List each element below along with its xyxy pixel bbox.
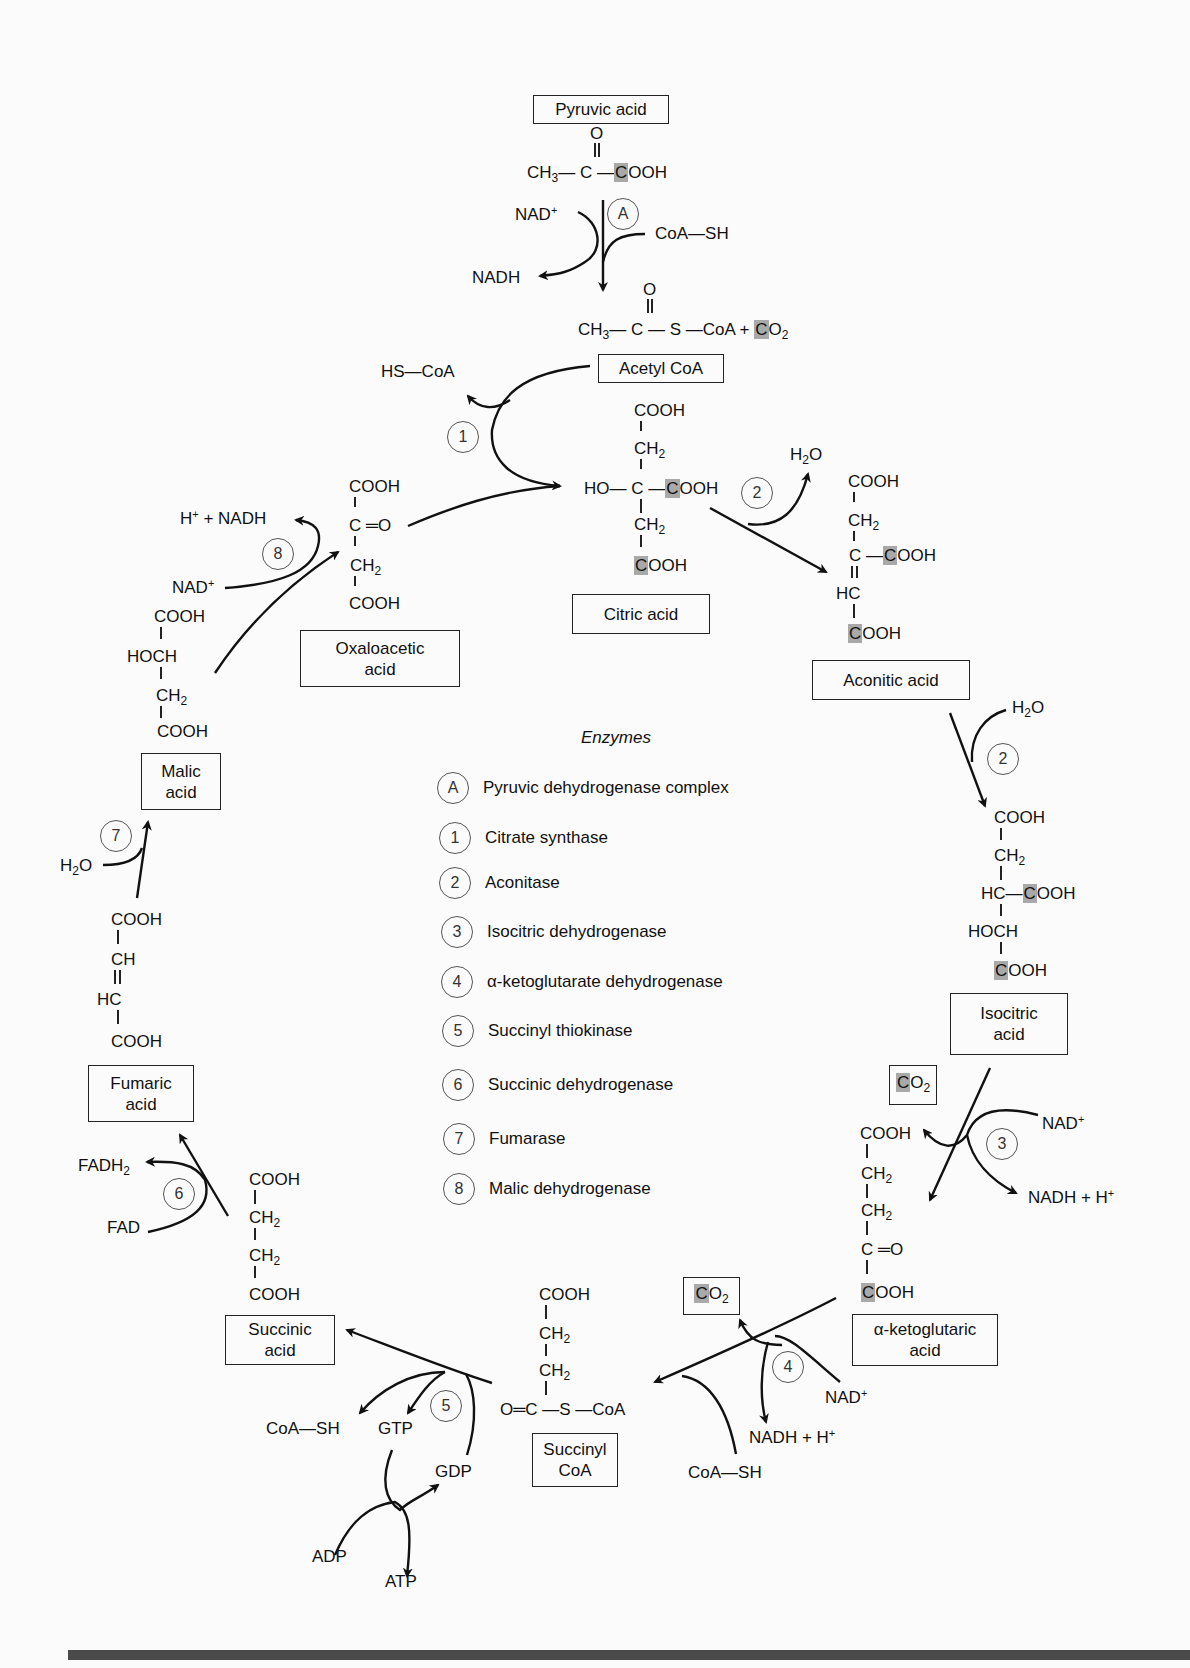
bond — [254, 1228, 256, 1240]
enzyme-marker: 6 — [442, 1069, 474, 1101]
formula-line: COOH — [249, 1285, 300, 1305]
compound-label: Fumaric — [110, 1073, 171, 1094]
formula-line: COOH — [848, 472, 899, 492]
carbonyl-oxygen: O — [590, 124, 603, 144]
formula-line: COOH — [994, 808, 1045, 828]
compound-box-alpha-ketoglutaric-acid[interactable]: α-ketoglutaric acid — [852, 1314, 998, 1366]
enzyme-marker-3[interactable]: 3 — [986, 1128, 1018, 1160]
enzyme-marker-1[interactable]: 1 — [447, 421, 479, 453]
compound-label: CoA — [558, 1460, 591, 1481]
cofactor-adp: ADP — [312, 1547, 347, 1567]
legend-item: 7 Fumarase — [443, 1122, 566, 1156]
bond — [117, 1010, 119, 1024]
bond — [1000, 904, 1002, 916]
bond — [354, 497, 356, 507]
formula-line: CH2 — [634, 439, 665, 459]
bond — [866, 1144, 868, 1158]
formula-line: C ═O — [349, 516, 391, 536]
cofactor-coa-sh: CoA—SH — [688, 1463, 762, 1483]
enzyme-marker: 1 — [439, 822, 471, 854]
bond — [160, 667, 162, 679]
bond — [354, 536, 356, 546]
compound-label: Oxaloacetic — [336, 638, 425, 659]
formula-line: CH2 — [994, 846, 1025, 866]
formula-line: COOH — [860, 1124, 911, 1144]
formula-line: COOH — [349, 477, 400, 497]
cofactor-nad-plus: NAD+ — [825, 1388, 867, 1408]
enzyme-marker: 7 — [443, 1123, 475, 1155]
carbonyl-oxygen: O — [643, 280, 656, 300]
co2-box: CO2 — [683, 1277, 740, 1315]
formula-line: C ═O — [861, 1240, 903, 1260]
bond — [853, 531, 855, 541]
enzyme-marker-4[interactable]: 4 — [772, 1351, 804, 1383]
compound-label: Pyruvic acid — [555, 99, 647, 120]
co2-label: CO2 — [694, 1283, 728, 1310]
bond — [866, 1260, 868, 1274]
compound-box-citric-acid[interactable]: Citric acid — [572, 594, 710, 634]
enzyme-marker-2[interactable]: 2 — [741, 477, 773, 509]
legend-title: Enzymes — [581, 728, 651, 748]
compound-box-acetyl-coa[interactable]: Acetyl CoA — [598, 354, 724, 383]
bond — [866, 1221, 868, 1235]
double-bond — [598, 143, 600, 157]
enzyme-marker-6[interactable]: 6 — [163, 1178, 195, 1210]
bond — [1000, 866, 1002, 880]
compound-box-oxaloacetic-acid[interactable]: Oxaloacetic acid — [300, 630, 460, 687]
compound-box-succinyl-coa[interactable]: Succinyl CoA — [532, 1433, 618, 1487]
compound-label: Succinic — [248, 1319, 311, 1340]
bond — [866, 1184, 868, 1198]
bond — [640, 421, 642, 431]
bond — [254, 1266, 256, 1278]
formula-line: COOH — [249, 1170, 300, 1190]
compound-box-fumaric-acid[interactable]: Fumaric acid — [88, 1065, 194, 1122]
legend-item: A Pyruvic dehydrogenase complex — [437, 771, 729, 805]
bond — [354, 576, 356, 586]
bond — [640, 459, 642, 469]
formula-line: COOH — [111, 910, 162, 930]
double-bond — [114, 970, 116, 984]
bond — [117, 930, 119, 944]
formula-line: CH2 — [350, 556, 381, 576]
formula-line: HC — [836, 584, 861, 604]
enzyme-marker-8[interactable]: 8 — [262, 538, 294, 570]
bond — [545, 1344, 547, 1356]
cofactor-nadh-h: NADH + H+ — [1028, 1188, 1114, 1208]
enzyme-marker-2b[interactable]: 2 — [987, 743, 1019, 775]
cofactor-nadh: NADH — [472, 268, 520, 288]
compound-box-succinic-acid[interactable]: Succinic acid — [225, 1315, 335, 1365]
cofactor-atp: ATP — [385, 1572, 417, 1592]
double-bond — [594, 143, 596, 157]
formula-line: COOH — [994, 961, 1047, 981]
formula-line: HOCH — [127, 647, 177, 667]
compound-box-isocitric-acid[interactable]: Isocitric acid — [950, 993, 1068, 1055]
compound-label: Acetyl CoA — [619, 358, 703, 379]
cofactor-fadh2: FADH2 — [78, 1156, 130, 1176]
formula-line: COOH — [848, 624, 901, 644]
formula-line: HC — [97, 990, 122, 1010]
compound-box-pyruvic-acid[interactable]: Pyruvic acid — [533, 95, 669, 124]
enzyme-marker-5[interactable]: 5 — [430, 1390, 462, 1422]
co2-box: CO2 — [889, 1065, 937, 1105]
compound-label: Malic — [161, 761, 201, 782]
compound-box-aconitic-acid[interactable]: Aconitic acid — [812, 660, 970, 700]
legend-item: 3 Isocitric dehydrogenase — [441, 915, 667, 949]
pyruvic-formula: CH3— C —COOH — [527, 163, 667, 183]
formula-line: CH2 — [861, 1164, 892, 1184]
enzyme-marker-7[interactable]: 7 — [100, 820, 132, 852]
compound-box-malic-acid[interactable]: Malic acid — [141, 753, 221, 810]
formula-line: COOH — [157, 722, 208, 742]
formula-line: CH2 — [249, 1208, 280, 1228]
double-bond — [647, 299, 649, 313]
formula-line: CH2 — [848, 511, 879, 531]
cofactor-gtp: GTP — [378, 1419, 413, 1439]
bond — [545, 1381, 547, 1395]
legend-item-label: Succinyl thiokinase — [488, 1021, 633, 1041]
bond — [640, 535, 642, 547]
bond — [853, 492, 855, 502]
enzyme-marker-A[interactable]: A — [607, 198, 639, 230]
cofactor-nad-plus: NAD+ — [1042, 1114, 1084, 1134]
cofactor-nadh-h: NADH + H+ — [749, 1428, 835, 1448]
cofactor-nad-plus: NAD+ — [172, 578, 214, 598]
compound-label: Isocitric — [980, 1003, 1038, 1024]
